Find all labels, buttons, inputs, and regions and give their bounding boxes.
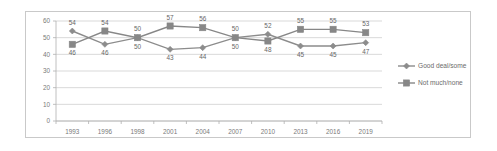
circle-marker xyxy=(265,31,271,37)
data-label-not-much-none: 54 xyxy=(101,19,109,26)
legend: Good deal/someNot much/none xyxy=(398,62,467,86)
circle-marker xyxy=(200,45,206,51)
y-axis-tick-labels: 6050403020100 xyxy=(43,17,51,124)
square-marker xyxy=(69,41,75,47)
data-label-good-deal-some: 45 xyxy=(330,51,338,58)
y-tick-label: 30 xyxy=(43,67,51,74)
y-tick-label: 60 xyxy=(43,17,51,24)
square-marker xyxy=(297,26,303,32)
square-marker xyxy=(403,80,409,86)
circle-marker xyxy=(167,46,173,52)
data-label-good-deal-some: 52 xyxy=(264,22,272,29)
axes-group xyxy=(53,21,382,124)
x-tick-label: 1993 xyxy=(65,128,80,135)
y-tick-label: 50 xyxy=(43,34,51,41)
y-tick-label: 40 xyxy=(43,51,51,58)
x-tick-label: 1998 xyxy=(130,128,145,135)
x-axis-tick-labels: 1993199619982001200420072010201320162019 xyxy=(65,128,373,135)
data-label-good-deal-some: 46 xyxy=(101,49,109,56)
square-marker xyxy=(200,25,206,31)
square-marker xyxy=(134,35,140,41)
x-tick-label: 2007 xyxy=(228,128,243,135)
data-label-not-much-none: 53 xyxy=(362,20,370,27)
circle-marker xyxy=(69,28,75,34)
data-label-not-much-none: 55 xyxy=(297,17,305,24)
x-tick-label: 2010 xyxy=(261,128,276,135)
circle-marker xyxy=(363,40,369,46)
square-marker xyxy=(265,38,271,44)
data-label-good-deal-some: 47 xyxy=(362,48,370,55)
circle-marker xyxy=(404,63,410,69)
x-tick-label: 2001 xyxy=(163,128,178,135)
legend-label-good-deal-some[interactable]: Good deal/some xyxy=(418,62,467,69)
x-tick-label: 2019 xyxy=(359,128,374,135)
square-marker xyxy=(330,26,336,32)
square-marker xyxy=(363,30,369,36)
y-tick-label: 10 xyxy=(43,101,51,108)
data-label-good-deal-some: 54 xyxy=(69,19,77,26)
data-label-good-deal-some: 50 xyxy=(232,25,240,32)
data-label-not-much-none: 57 xyxy=(167,14,175,21)
circle-marker xyxy=(102,41,108,47)
x-tick-label: 2013 xyxy=(293,128,308,135)
data-label-good-deal-some: 45 xyxy=(297,51,305,58)
circle-marker xyxy=(330,43,336,49)
line-chart-svg: 6050403020100 19931996199820012004200720… xyxy=(26,12,472,139)
x-tick-label: 2016 xyxy=(326,128,341,135)
data-label-good-deal-some: 50 xyxy=(134,25,142,32)
data-label-not-much-none: 50 xyxy=(232,43,240,50)
square-marker xyxy=(232,35,238,41)
y-tick-label: 20 xyxy=(43,84,51,91)
x-tick-label: 2004 xyxy=(196,128,211,135)
chart-container: 6050403020100 19931996199820012004200720… xyxy=(25,11,471,138)
data-label-good-deal-some: 43 xyxy=(167,54,175,61)
data-label-not-much-none: 56 xyxy=(199,15,207,22)
x-tick-label: 1996 xyxy=(98,128,113,135)
y-tick-label: 0 xyxy=(46,117,50,124)
circle-marker xyxy=(298,43,304,49)
data-label-not-much-none: 46 xyxy=(69,49,77,56)
legend-label-not-much-none[interactable]: Not much/none xyxy=(418,79,463,86)
data-label-not-much-none: 50 xyxy=(134,43,142,50)
data-label-not-much-none: 48 xyxy=(264,46,272,53)
plot-area: 6050403020100 19931996199820012004200720… xyxy=(26,12,472,139)
data-label-good-deal-some: 44 xyxy=(199,53,207,60)
square-marker xyxy=(102,28,108,34)
gridlines-group xyxy=(56,21,382,121)
data-label-not-much-none: 55 xyxy=(330,17,338,24)
square-marker xyxy=(167,23,173,29)
